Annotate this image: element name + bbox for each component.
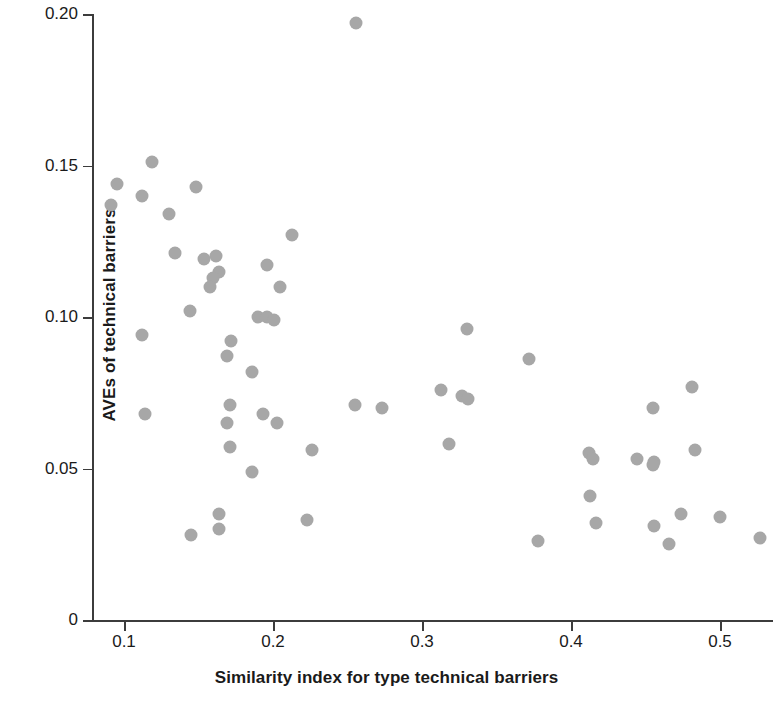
x-tick-mark bbox=[124, 622, 126, 631]
data-point bbox=[110, 177, 123, 190]
data-point bbox=[135, 329, 148, 342]
data-point bbox=[204, 280, 217, 293]
x-tick-label: 0.5 bbox=[708, 632, 732, 652]
y-tick-mark bbox=[83, 469, 92, 471]
data-point bbox=[348, 398, 361, 411]
data-point bbox=[185, 529, 198, 542]
data-point bbox=[462, 392, 475, 405]
data-point bbox=[210, 250, 223, 263]
data-point bbox=[146, 156, 159, 169]
data-point bbox=[688, 444, 701, 457]
y-tick-mark bbox=[83, 14, 92, 16]
data-point bbox=[714, 510, 727, 523]
data-point bbox=[225, 335, 238, 348]
data-point bbox=[213, 507, 226, 520]
data-point bbox=[350, 17, 363, 30]
data-point bbox=[261, 259, 274, 272]
data-point bbox=[189, 180, 202, 193]
data-point bbox=[271, 417, 284, 430]
x-tick-mark bbox=[422, 622, 424, 631]
data-point bbox=[754, 532, 767, 545]
data-point bbox=[435, 383, 448, 396]
data-point bbox=[162, 207, 175, 220]
data-point bbox=[523, 353, 536, 366]
y-axis-line bbox=[92, 14, 94, 620]
data-point bbox=[223, 398, 236, 411]
data-point bbox=[648, 520, 661, 533]
scatter-plot-figure: AVEs of technical barriers 00.050.100.15… bbox=[0, 0, 773, 702]
x-axis-line bbox=[92, 620, 773, 622]
data-point bbox=[305, 444, 318, 457]
x-tick-label: 0.2 bbox=[261, 632, 285, 652]
data-point bbox=[220, 417, 233, 430]
data-point bbox=[460, 323, 473, 336]
data-point bbox=[135, 189, 148, 202]
data-point bbox=[675, 507, 688, 520]
data-point bbox=[256, 407, 269, 420]
data-point bbox=[274, 280, 287, 293]
data-point bbox=[246, 465, 259, 478]
x-tick-label: 0.3 bbox=[410, 632, 434, 652]
data-point bbox=[685, 380, 698, 393]
data-point bbox=[223, 441, 236, 454]
data-point bbox=[646, 459, 659, 472]
data-point bbox=[168, 247, 181, 260]
data-point bbox=[590, 517, 603, 530]
data-point bbox=[301, 514, 314, 527]
data-point bbox=[286, 229, 299, 242]
data-point bbox=[442, 438, 455, 451]
y-tick-mark bbox=[83, 317, 92, 319]
y-tick-mark bbox=[83, 620, 92, 622]
data-point bbox=[268, 314, 281, 327]
data-point bbox=[138, 407, 151, 420]
x-tick-mark bbox=[720, 622, 722, 631]
data-point bbox=[663, 538, 676, 551]
data-point bbox=[220, 350, 233, 363]
data-point bbox=[532, 535, 545, 548]
data-point bbox=[587, 453, 600, 466]
data-point bbox=[646, 401, 659, 414]
data-point bbox=[198, 253, 211, 266]
x-tick-mark bbox=[571, 622, 573, 631]
data-point bbox=[183, 304, 196, 317]
data-point bbox=[104, 198, 117, 211]
data-point bbox=[213, 523, 226, 536]
x-axis-title: Similarity index for type technical barr… bbox=[0, 668, 773, 688]
plot-area bbox=[0, 0, 773, 702]
data-point bbox=[375, 401, 388, 414]
x-tick-mark bbox=[273, 622, 275, 631]
y-tick-mark bbox=[83, 166, 92, 168]
data-point bbox=[246, 365, 259, 378]
data-point bbox=[584, 489, 597, 502]
x-tick-label: 0.1 bbox=[112, 632, 136, 652]
data-point bbox=[630, 453, 643, 466]
x-tick-label: 0.4 bbox=[559, 632, 583, 652]
